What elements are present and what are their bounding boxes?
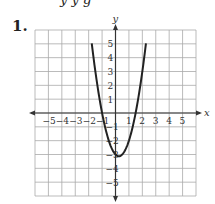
y-tick-label: −1 bbox=[106, 122, 119, 132]
x-tick-label: 5 bbox=[180, 116, 186, 126]
x-tick-label: 3 bbox=[153, 116, 159, 126]
coordinate-plane: xy−5−4−3−2−11234554321−1−2−3−4−5 bbox=[0, 0, 215, 204]
x-axis-label: x bbox=[204, 107, 210, 118]
y-tick-label: −4 bbox=[106, 164, 120, 174]
y-tick-label: 2 bbox=[108, 81, 114, 91]
x-tick-label: 4 bbox=[166, 116, 172, 126]
x-tick-label: 2 bbox=[139, 116, 145, 126]
y-axis-label: y bbox=[112, 13, 119, 24]
x-axis-arrow-right-icon bbox=[196, 111, 202, 116]
y-tick-label: −5 bbox=[106, 178, 120, 188]
parabola-curve bbox=[92, 43, 146, 156]
x-tick-label: −4 bbox=[56, 116, 70, 126]
y-axis-arrow-down-icon bbox=[113, 196, 118, 202]
x-tick-label: −5 bbox=[42, 116, 56, 126]
x-tick-label: −3 bbox=[69, 116, 83, 126]
y-tick-label: 3 bbox=[108, 67, 114, 77]
x-axis-arrow-left-icon bbox=[29, 111, 35, 116]
y-tick-label: 4 bbox=[108, 53, 114, 63]
x-tick-label: 1 bbox=[126, 116, 132, 126]
x-tick-label: −2 bbox=[83, 116, 96, 126]
y-axis-arrow-up-icon bbox=[113, 24, 118, 30]
y-tick-label: 5 bbox=[108, 39, 114, 49]
y-tick-label: 1 bbox=[108, 95, 114, 105]
